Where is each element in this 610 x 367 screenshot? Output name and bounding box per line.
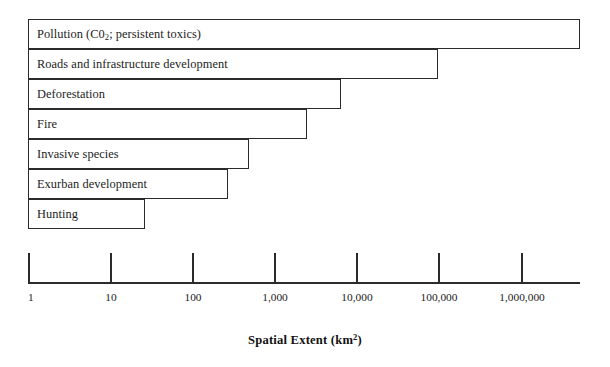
bar-label: Fire	[29, 118, 57, 130]
bar-row: Pollution (C02; persistent toxics)	[28, 19, 580, 49]
bar-row: Roads and infrastructure development	[28, 49, 438, 79]
bar-row: Deforestation	[28, 79, 341, 109]
axis-tick-label: 1,000,000	[499, 292, 545, 303]
axis-tick	[274, 253, 276, 283]
x-axis-line	[28, 282, 580, 284]
axis-tick	[438, 253, 440, 283]
bar-label: Invasive species	[29, 148, 119, 160]
axis-tick-label: 10	[105, 292, 116, 303]
axis-tick-label: 1,000	[262, 292, 288, 303]
axis-tick	[521, 253, 523, 283]
subscript: 2	[105, 32, 109, 42]
x-axis-title: Spatial Extent (km2)	[0, 333, 610, 348]
bar-label: Hunting	[29, 208, 78, 220]
bar-label: Roads and infrastructure development	[29, 58, 228, 70]
bar-label: Pollution (C02; persistent toxics)	[29, 28, 201, 40]
bar-row: Fire	[28, 109, 307, 139]
axis-tick	[356, 253, 358, 283]
axis-tick	[28, 253, 30, 283]
axis-tick-label: 100,000	[420, 292, 457, 303]
axis-tick-label: 1	[28, 292, 34, 303]
bar-row: Hunting	[28, 199, 145, 229]
axis-tick	[110, 253, 112, 283]
bars-group: Pollution (C02; persistent toxics)Roads …	[0, 0, 610, 240]
axis-tick-label: 100	[184, 292, 201, 303]
bar-label: Deforestation	[29, 88, 105, 100]
spatial-extent-bar-chart: Pollution (C02; persistent toxics)Roads …	[0, 0, 610, 367]
bar-row: Invasive species	[28, 139, 249, 169]
axis-tick	[192, 253, 194, 283]
axis-tick-label: 10,000	[341, 292, 372, 303]
superscript: 2	[353, 332, 358, 342]
bar-row: Exurban development	[28, 169, 228, 199]
bar-label: Exurban development	[29, 178, 147, 190]
